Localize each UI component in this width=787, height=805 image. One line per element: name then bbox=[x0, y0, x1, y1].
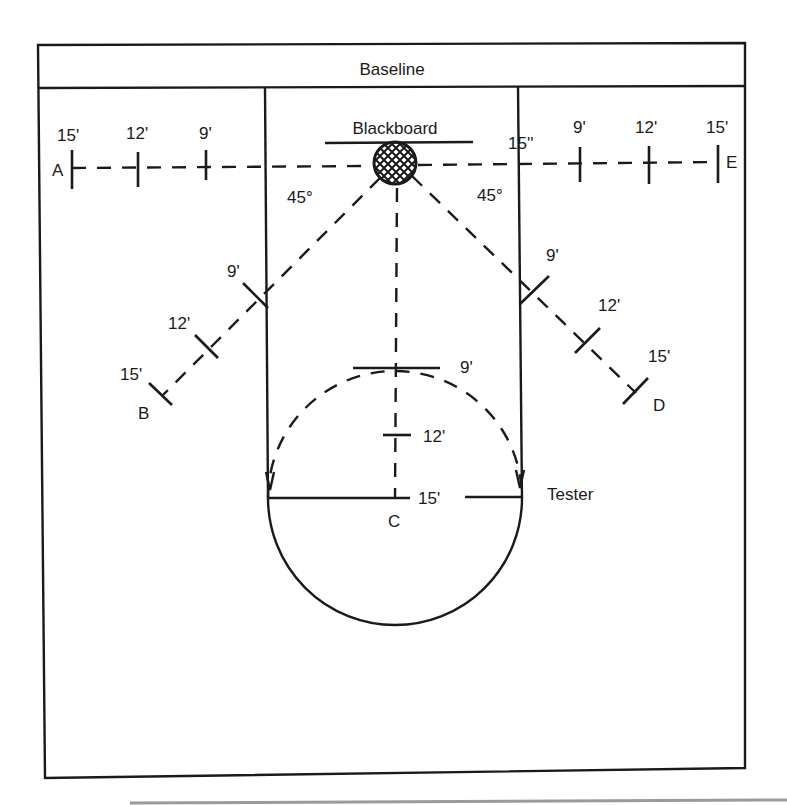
spot-a-label: A bbox=[52, 161, 64, 180]
court-diagram: Baseline Blackboard 15' 12' 9' A 15'' 9'… bbox=[0, 0, 787, 805]
tester-label: Tester bbox=[547, 485, 594, 504]
angle-left-label: 45° bbox=[287, 188, 313, 207]
spot-a-mark-9: 9' bbox=[199, 124, 212, 143]
spot-e-mark-12: 12' bbox=[635, 118, 657, 137]
spot-d-mark-12: 12' bbox=[598, 296, 620, 315]
spot-a-line bbox=[72, 166, 372, 168]
tick-d-9 bbox=[520, 276, 549, 304]
spot-b-mark-9: 9' bbox=[227, 262, 240, 281]
spot-b-mark-15: 15' bbox=[120, 365, 142, 384]
spot-d-line bbox=[412, 176, 636, 393]
spot-d-mark-9: 9' bbox=[546, 246, 559, 265]
spot-b-mark-12: 12' bbox=[168, 314, 190, 333]
tick-d-15 bbox=[623, 378, 648, 404]
spot-c-label: C bbox=[388, 512, 400, 531]
baseline-band-line bbox=[38, 86, 745, 88]
baseline-label: Baseline bbox=[359, 60, 424, 79]
spot-e-line bbox=[418, 162, 718, 165]
spot-b-line bbox=[163, 178, 380, 395]
spot-c-mark-15: 15' bbox=[418, 489, 440, 508]
tick-b-12 bbox=[195, 335, 218, 358]
spot-c-mark-12: 12' bbox=[423, 427, 445, 446]
spot-e-mark-15-short: 15'' bbox=[508, 134, 533, 153]
hoop-icon bbox=[374, 142, 416, 184]
spot-a-mark-15: 15' bbox=[57, 126, 79, 145]
page-edge bbox=[130, 800, 787, 803]
spot-e-mark-15: 15' bbox=[706, 118, 728, 137]
tick-b-15 bbox=[149, 383, 172, 405]
spot-b-label: B bbox=[138, 404, 149, 423]
tick-d-12 bbox=[575, 328, 600, 353]
spot-c-mark-9: 9' bbox=[460, 358, 473, 377]
blackboard-label: Blackboard bbox=[352, 119, 437, 138]
spot-d-mark-15: 15' bbox=[648, 347, 670, 366]
spot-e-label: E bbox=[726, 153, 737, 172]
tick-b-9 bbox=[243, 283, 268, 308]
spot-a-mark-12: 12' bbox=[126, 124, 148, 143]
spot-c-line bbox=[395, 188, 397, 498]
spot-e-mark-9: 9' bbox=[573, 118, 586, 137]
angle-right-label: 45° bbox=[477, 186, 503, 205]
spot-d-label: D bbox=[653, 396, 665, 415]
